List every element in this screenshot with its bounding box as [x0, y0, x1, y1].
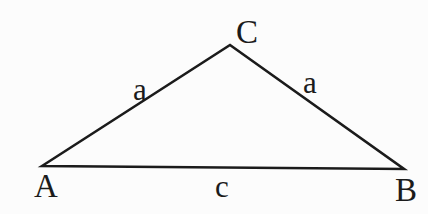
vertex-label-a: A: [34, 170, 58, 203]
vertex-label-c: C: [236, 16, 258, 49]
paper-background: [0, 0, 428, 214]
side-label-a-left: a: [133, 74, 147, 105]
triangle-diagram: C A B a a c: [0, 0, 428, 214]
triangle-canvas: [0, 0, 428, 214]
side-label-c: c: [215, 171, 229, 202]
vertex-label-b: B: [395, 174, 417, 207]
side-label-a-right: a: [303, 67, 317, 98]
